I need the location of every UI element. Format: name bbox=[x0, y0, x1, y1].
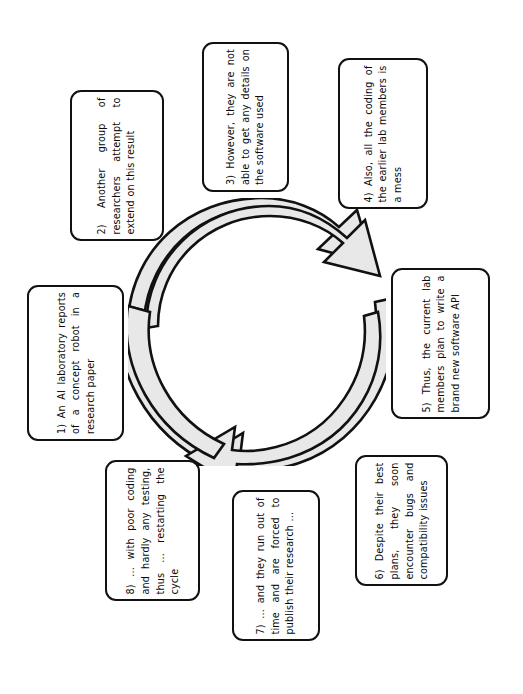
step-text-4: 4) Also, all the coding of the earlier l… bbox=[361, 65, 405, 202]
step-box-2[interactable]: 2) Another group of researchers attempt … bbox=[70, 90, 164, 241]
step-text-5: 5) Thus, the current lab members plan to… bbox=[419, 275, 463, 412]
step-text-2: 2) Another group of researchers attempt … bbox=[95, 97, 139, 234]
step-box-5[interactable]: 5) Thus, the current lab members plan to… bbox=[391, 268, 490, 419]
step-text-1: 1) An AI laboratory reports of a concept… bbox=[54, 292, 98, 434]
step-box-1[interactable]: 1) An AI laboratory reports of a concept… bbox=[27, 285, 124, 441]
step-box-7[interactable]: 7) ... and they run out of time and are … bbox=[232, 490, 320, 641]
step-text-6: 6) Despite their best plans, they soon e… bbox=[372, 462, 430, 579]
step-text-8: 8) ... with poor coding and hardly any t… bbox=[123, 467, 181, 594]
step-box-8[interactable]: 8) ... with poor coding and hardly any t… bbox=[105, 460, 200, 601]
step-text-7: 7) ... and they run out of time and are … bbox=[254, 497, 298, 634]
step-box-6[interactable]: 6) Despite their best plans, they soon e… bbox=[355, 455, 448, 586]
three-arrow-cycle-graphic bbox=[128, 198, 386, 466]
step-text-3: 3) However, they are not able to get any… bbox=[224, 49, 268, 185]
step-box-3[interactable]: 3) However, they are not able to get any… bbox=[202, 42, 289, 192]
step-box-4[interactable]: 4) Also, all the coding of the earlier l… bbox=[338, 58, 428, 209]
diagram-canvas: 1) An AI laboratory reports of a concept… bbox=[0, 0, 523, 694]
